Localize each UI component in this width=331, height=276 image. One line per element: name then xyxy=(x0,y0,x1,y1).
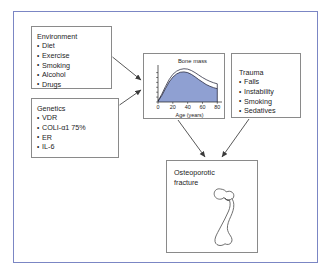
fracture-title-line1: Osteoporotic xyxy=(174,168,257,178)
bone-mass-chart-box: 020406080Bone massAge (years) xyxy=(143,53,225,119)
trauma-list: Falls Instability Smoking Sedatives xyxy=(239,77,300,115)
chart-x-tick-label: 60 xyxy=(199,104,205,110)
environment-box: Environment Diet Exercise Smoking Alcoho… xyxy=(31,26,112,89)
trauma-box: Trauma Falls Instability Smoking Sedativ… xyxy=(231,53,301,118)
femur-shaft-and-condyles xyxy=(215,198,234,246)
list-item: VDR xyxy=(37,113,118,123)
chart-title: Bone mass xyxy=(178,58,207,64)
list-item: ER xyxy=(37,133,118,143)
list-item: Smoking xyxy=(37,61,111,71)
environment-list: Diet Exercise Smoking Alcohol Drugs xyxy=(37,41,111,89)
list-item: Falls xyxy=(239,77,300,87)
chart-x-axis-label: Age (years) xyxy=(176,112,204,118)
list-item: Drugs xyxy=(37,80,111,90)
list-item: Diet xyxy=(37,41,111,51)
list-item: COLI-α1 75% xyxy=(37,123,118,133)
chart-x-tick-label: 20 xyxy=(170,104,176,110)
list-item: Exercise xyxy=(37,51,111,61)
chart-x-tick-label: 0 xyxy=(157,104,160,110)
chart-x-tick-label: 80 xyxy=(214,104,220,110)
genetics-list: VDR COLI-α1 75% ER IL-6 xyxy=(37,113,118,151)
chart-x-tick-label: 40 xyxy=(185,104,191,110)
list-item: Instability xyxy=(239,87,300,97)
osteoporotic-fracture-box: Osteoporotic fracture xyxy=(166,160,258,253)
list-item: Smoking xyxy=(239,97,300,107)
genetics-box: Genetics VDR COLI-α1 75% ER IL-6 xyxy=(31,98,119,158)
list-item: Sedatives xyxy=(239,106,300,116)
genetics-title: Genetics xyxy=(37,104,118,113)
femur-bone-icon xyxy=(191,183,253,251)
diagram-canvas: Environment Diet Exercise Smoking Alcoho… xyxy=(0,0,331,276)
bone-mass-chart: 020406080Bone massAge (years) xyxy=(144,54,226,120)
chart-area-fill xyxy=(158,72,217,102)
environment-title: Environment xyxy=(37,32,111,41)
list-item: IL-6 xyxy=(37,142,118,152)
trauma-title: Trauma xyxy=(239,68,300,77)
femur-head-and-trochanter xyxy=(214,189,234,200)
list-item: Alcohol xyxy=(37,70,111,80)
